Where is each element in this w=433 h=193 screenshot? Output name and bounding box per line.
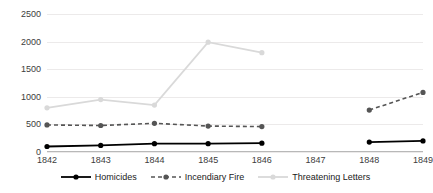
x-axis-tick-label: 1842 xyxy=(37,155,57,165)
data-point xyxy=(206,40,211,45)
chart-legend: HomicidesIncendiary FireThreatening Lett… xyxy=(0,172,431,182)
y-axis-tick-label: 1500 xyxy=(0,64,41,74)
plot-area xyxy=(47,14,423,152)
series-layer xyxy=(47,14,423,152)
data-point xyxy=(98,123,103,128)
data-point xyxy=(44,122,49,127)
data-point xyxy=(259,141,264,146)
line-dashed-gray-icon xyxy=(151,172,181,182)
line-solid-lightgray-icon xyxy=(258,172,288,182)
legend-item[interactable]: Threatening Letters xyxy=(258,172,370,182)
data-point xyxy=(98,97,103,102)
data-point xyxy=(206,141,211,146)
series-line xyxy=(369,141,423,142)
x-axis-tick-label: 1844 xyxy=(144,155,164,165)
x-axis-tick-label: 1845 xyxy=(198,155,218,165)
series-line xyxy=(369,92,423,110)
data-point xyxy=(98,143,103,148)
data-point xyxy=(44,144,49,149)
data-point xyxy=(420,90,425,95)
legend-label: Homicides xyxy=(95,172,137,182)
series-line xyxy=(47,42,262,108)
legend-item[interactable]: Incendiary Fire xyxy=(151,172,245,182)
legend-label: Threatening Letters xyxy=(292,172,370,182)
series-homicides xyxy=(44,138,425,149)
data-point xyxy=(420,138,425,143)
y-axis-tick-label: 0 xyxy=(0,147,41,157)
y-axis-tick-label: 2000 xyxy=(0,37,41,47)
data-point xyxy=(152,102,157,107)
x-axis-tick-label: 1846 xyxy=(252,155,272,165)
x-axis-tick-label: 1843 xyxy=(91,155,111,165)
x-axis-tick-label: 1847 xyxy=(306,155,326,165)
data-point xyxy=(44,105,49,110)
x-axis-tick-label: 1848 xyxy=(359,155,379,165)
data-point xyxy=(152,141,157,146)
x-axis-tick-label: 1849 xyxy=(413,155,433,165)
data-point xyxy=(367,107,372,112)
series-threatening-letters xyxy=(44,40,264,111)
data-point xyxy=(367,139,372,144)
gridline xyxy=(47,152,423,153)
y-axis-tick-label: 500 xyxy=(0,119,41,129)
data-point xyxy=(259,50,264,55)
legend-item[interactable]: Homicides xyxy=(61,172,137,182)
line-solid-black-icon xyxy=(61,172,91,182)
series-incendiary-fire xyxy=(44,90,425,129)
data-point xyxy=(206,123,211,128)
data-point xyxy=(152,121,157,126)
legend-label: Incendiary Fire xyxy=(185,172,245,182)
data-point xyxy=(259,124,264,129)
y-axis-tick-label: 2500 xyxy=(0,9,41,19)
y-axis-tick-label: 1000 xyxy=(0,92,41,102)
